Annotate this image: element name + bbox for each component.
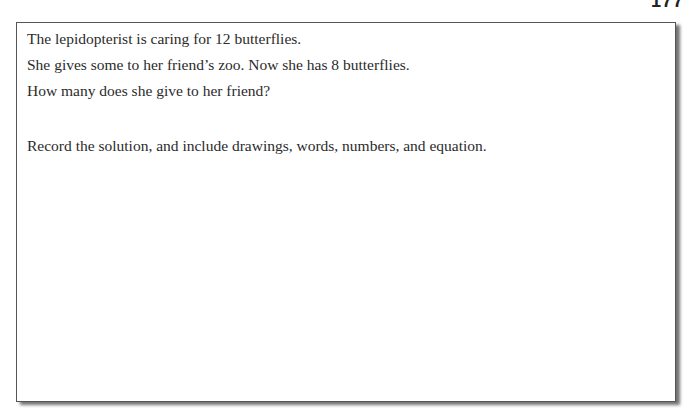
problem-instruction: Record the solution, and include drawing…	[27, 136, 487, 156]
page-number: 177	[651, 0, 684, 12]
problem-question: How many does she give to her friend?	[27, 81, 270, 101]
problem-line-2: She gives some to her friend’s zoo. Now …	[27, 55, 410, 75]
problem-line-1: The lepidopterist is caring for 12 butte…	[27, 29, 301, 49]
solution-work-area[interactable]	[17, 163, 675, 401]
word-problem-box: The lepidopterist is caring for 12 butte…	[16, 22, 676, 402]
